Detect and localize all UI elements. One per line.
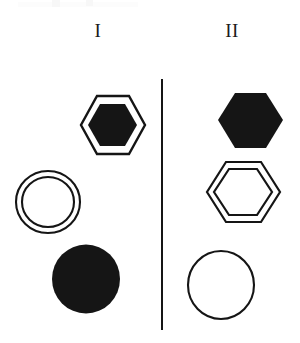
- vertical-divider-line: [161, 79, 163, 330]
- shape-open-circle-outline: [184, 247, 258, 323]
- scan-artifact: [18, 2, 138, 7]
- shape-outlined-hexagon-with-filled-hexagon: [78, 93, 148, 161]
- shape-solid-filled-circle: [49, 242, 123, 317]
- column-label-one: I: [78, 21, 118, 40]
- shape-concentric-double-circle: [12, 167, 84, 237]
- shape-solid-filled-hexagon: [215, 90, 287, 152]
- column-label-two: II: [210, 21, 254, 40]
- scan-artifact: [52, 0, 60, 7]
- scan-artifact: [86, 0, 93, 6]
- figure-canvas: I II: [0, 0, 300, 343]
- shape-concentric-double-hexagon: [204, 159, 284, 227]
